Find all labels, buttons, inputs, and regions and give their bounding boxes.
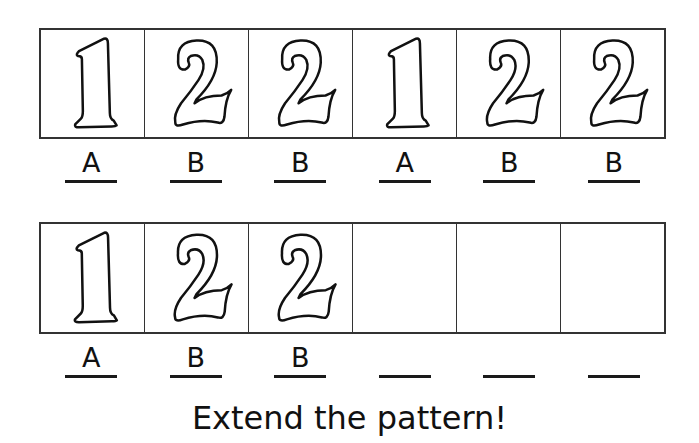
pattern-cell-1-6 [561,30,664,137]
digit-one-icon [41,224,144,332]
pattern-row-2 [39,222,666,334]
pattern-cell-1-2 [145,30,249,137]
answer-underline [65,375,117,378]
answer-underline [379,180,431,183]
label-blank: B [144,148,249,184]
empty-answer-cell-5[interactable] [457,224,561,332]
digit-two-icon [249,224,352,332]
pattern-cell-2-3 [249,224,353,332]
answer-blank-5[interactable] [457,343,562,379]
digit-one-icon [353,30,456,137]
answer-underline [274,180,326,183]
empty-answer-cell-4[interactable] [353,224,457,332]
answer-underline [483,180,535,183]
answer-underline [65,180,117,183]
instruction-text: Extend the pattern! [0,398,699,438]
answer-underline [588,180,640,183]
label-blank: B [248,148,353,184]
label-letter: B [562,148,667,178]
pattern-cell-1-5 [457,30,561,137]
label-blank: B [248,343,353,379]
label-blank: A [39,148,144,184]
label-blank: B [562,148,667,184]
pattern-labels-row-1: A B B A B B [39,148,666,184]
answer-underline [379,375,431,378]
label-letter: A [39,343,144,373]
answer-underline [274,375,326,378]
pattern-cell-1-4 [353,30,457,137]
answer-underline [170,180,222,183]
pattern-cell-1-3 [249,30,353,137]
pattern-cell-2-1 [41,224,145,332]
digit-two-icon [145,224,248,332]
label-letter: B [248,148,353,178]
digit-two-icon [561,30,664,137]
answer-underline [588,375,640,378]
label-letter: B [248,343,353,373]
label-blank: A [39,343,144,379]
label-letter: A [39,148,144,178]
label-blank: B [457,148,562,184]
answer-underline [170,375,222,378]
empty-answer-cell-6[interactable] [561,224,664,332]
label-blank: B [144,343,249,379]
pattern-cell-1-1 [41,30,145,137]
digit-two-icon [457,30,560,137]
label-letter: B [457,148,562,178]
label-letter: A [353,148,458,178]
pattern-cell-2-2 [145,224,249,332]
answer-underline [483,375,535,378]
pattern-labels-row-2: A B B [39,343,666,379]
pattern-row-1 [39,28,666,139]
label-blank: A [353,148,458,184]
digit-two-icon [145,30,248,137]
label-letter: B [144,148,249,178]
answer-blank-4[interactable] [353,343,458,379]
label-letter: B [144,343,249,373]
digit-two-icon [249,30,352,137]
digit-one-icon [41,30,144,137]
answer-blank-6[interactable] [562,343,667,379]
